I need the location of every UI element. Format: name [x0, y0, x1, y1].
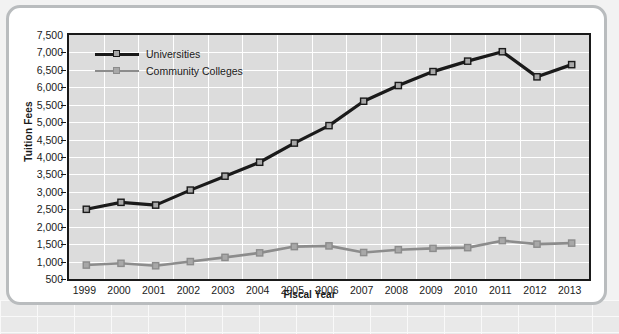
y-tick-mark [61, 262, 66, 263]
legend-marker-icon [113, 67, 120, 74]
data-point-marker [499, 238, 505, 244]
chart-card: Tuition Fees 5001,0001,5002,0002,5003,00… [6, 5, 607, 305]
legend-swatch [95, 65, 139, 77]
y-tick-label: 2,500 [19, 203, 63, 215]
data-point-marker [187, 258, 193, 264]
data-point-marker [83, 262, 89, 268]
data-point-marker [187, 187, 193, 193]
data-point-marker [569, 240, 575, 246]
data-point-marker [326, 243, 332, 249]
y-tick-label: 6,500 [19, 64, 63, 76]
data-point-marker [361, 98, 367, 104]
data-point-marker [395, 82, 401, 88]
y-tick-label: 6,000 [19, 81, 63, 93]
y-tick-mark [61, 174, 66, 175]
chart-page: Tuition Fees 5001,0001,5002,0002,5003,00… [0, 0, 619, 334]
data-point-marker [83, 206, 89, 212]
legend-label: Community Colleges [146, 65, 243, 77]
data-point-marker [430, 245, 436, 251]
data-point-marker [257, 250, 263, 256]
data-point-marker [534, 74, 540, 80]
data-point-marker [499, 49, 505, 55]
legend-marker-icon [113, 50, 120, 57]
y-tick-mark [61, 209, 66, 210]
y-tick-label: 4,000 [19, 151, 63, 163]
y-tick-label: 1,000 [19, 256, 63, 268]
y-tick-mark [61, 244, 66, 245]
y-tick-mark [61, 192, 66, 193]
y-tick-label: 2,000 [19, 221, 63, 233]
legend-label: Universities [146, 48, 200, 60]
y-tick-label: 7,000 [19, 46, 63, 58]
data-point-marker [222, 173, 228, 179]
data-point-marker [153, 202, 159, 208]
line-chart: Tuition Fees 5001,0001,5002,0002,5003,00… [9, 8, 610, 308]
y-tick-mark [61, 279, 66, 280]
y-tick-label: 7,500 [19, 29, 63, 41]
y-tick-label: 5,500 [19, 99, 63, 111]
legend-item[interactable]: Community Colleges [95, 62, 285, 79]
data-point-marker [257, 159, 263, 165]
data-point-marker [569, 62, 575, 68]
data-point-marker [361, 249, 367, 255]
chart-legend: UniversitiesCommunity Colleges [95, 45, 285, 79]
legend-swatch [95, 48, 139, 60]
data-point-marker [118, 199, 124, 205]
data-point-marker [291, 243, 297, 249]
data-point-marker [395, 247, 401, 253]
y-tick-label: 500 [19, 273, 63, 285]
y-tick-mark [61, 140, 66, 141]
data-point-marker [465, 58, 471, 64]
x-axis-title: Fiscal Year [9, 289, 610, 300]
y-tick-mark [61, 157, 66, 158]
y-tick-label: 5,000 [19, 116, 63, 128]
data-point-marker [118, 260, 124, 266]
data-point-marker [326, 123, 332, 129]
y-tick-mark [61, 227, 66, 228]
data-point-marker [465, 245, 471, 251]
data-point-marker [430, 69, 436, 75]
y-tick-mark [61, 87, 66, 88]
y-tick-label: 3,500 [19, 168, 63, 180]
y-tick-mark [61, 122, 66, 123]
data-point-marker [534, 241, 540, 247]
y-tick-mark [61, 52, 66, 53]
data-point-marker [291, 140, 297, 146]
data-point-marker [222, 254, 228, 260]
legend-item[interactable]: Universities [95, 45, 285, 62]
y-tick-mark [61, 70, 66, 71]
y-tick-label: 1,500 [19, 238, 63, 250]
data-point-marker [153, 263, 159, 269]
y-tick-mark [61, 105, 66, 106]
y-tick-label: 4,500 [19, 134, 63, 146]
y-tick-label: 3,000 [19, 186, 63, 198]
y-axis-tick-labels: 5001,0001,5002,0002,5003,0003,5004,0004,… [9, 8, 63, 308]
